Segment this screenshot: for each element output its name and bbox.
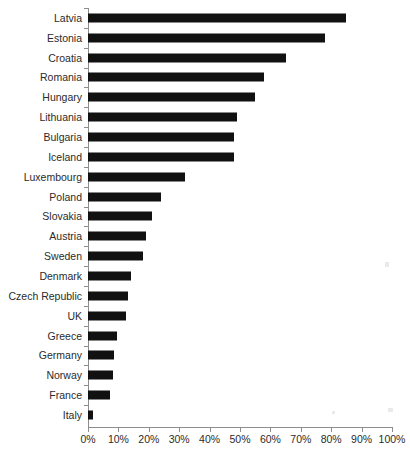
- bar-row: Slovakia: [88, 207, 392, 227]
- bar-category-label: Czech Republic: [8, 291, 82, 302]
- y-axis-tick: [84, 187, 88, 188]
- bar: [88, 272, 131, 281]
- x-axis-tick: [362, 427, 363, 432]
- bar: [88, 172, 185, 181]
- y-axis-tick: [84, 167, 88, 168]
- y-axis-tick: [84, 286, 88, 287]
- y-axis-tick: [84, 326, 88, 327]
- x-axis-tick: [301, 427, 302, 432]
- x-axis-tick-label: 10%: [108, 434, 129, 445]
- bar-category-label: Romania: [40, 72, 82, 83]
- bar-chart: LatviaEstoniaCroatiaRomaniaHungaryLithua…: [0, 0, 410, 457]
- bar-category-label: Denmark: [39, 271, 82, 282]
- x-axis-tick: [88, 427, 89, 432]
- x-axis-tick: [149, 427, 150, 432]
- x-axis-tick: [210, 427, 211, 432]
- bar-category-label: Austria: [49, 231, 82, 242]
- bar: [88, 411, 93, 420]
- bar-row: Greece: [88, 326, 392, 346]
- bar: [88, 331, 117, 340]
- bar-row: Poland: [88, 187, 392, 207]
- bar-row: Lithuania: [88, 107, 392, 127]
- bar-category-label: Greece: [48, 330, 82, 341]
- bar-category-label: Latvia: [54, 13, 82, 24]
- bar-row: Norway: [88, 365, 392, 385]
- bar-row: Estonia: [88, 28, 392, 48]
- bar: [88, 212, 152, 221]
- plot-area: LatviaEstoniaCroatiaRomaniaHungaryLithua…: [88, 8, 392, 425]
- bar-row: Croatia: [88, 48, 392, 68]
- x-axis-tick: [118, 427, 119, 432]
- bar-row: Austria: [88, 226, 392, 246]
- x-axis-tick-label: 90%: [351, 434, 372, 445]
- bar-category-label: Estonia: [47, 33, 82, 44]
- bar-category-label: Norway: [46, 370, 82, 381]
- bar-category-label: Croatia: [48, 52, 82, 63]
- x-axis-tick-label: 70%: [290, 434, 311, 445]
- x-axis-tick-label: 100%: [379, 434, 406, 445]
- x-axis-tick: [331, 427, 332, 432]
- bar: [88, 252, 143, 261]
- bar-category-label: Iceland: [48, 152, 82, 163]
- x-axis-tick-label: 80%: [321, 434, 342, 445]
- y-axis-tick: [84, 365, 88, 366]
- y-axis-tick: [84, 87, 88, 88]
- x-axis-tick-label: 30%: [169, 434, 190, 445]
- bar: [88, 33, 325, 42]
- bar: [88, 73, 264, 82]
- y-axis-tick: [84, 28, 88, 29]
- x-axis-tick: [392, 427, 393, 432]
- bar-row: Bulgaria: [88, 127, 392, 147]
- y-axis-tick: [84, 127, 88, 128]
- bar-category-label: Italy: [63, 410, 82, 421]
- bar-category-label: Poland: [49, 191, 82, 202]
- y-axis-tick: [84, 107, 88, 108]
- bar-category-label: France: [49, 390, 82, 401]
- y-axis-tick: [84, 207, 88, 208]
- bar-category-label: Lithuania: [39, 112, 82, 123]
- bar: [88, 152, 234, 161]
- y-axis-tick: [84, 266, 88, 267]
- x-axis-tick-label: 20%: [138, 434, 159, 445]
- bar-row: Iceland: [88, 147, 392, 167]
- y-axis-tick: [84, 48, 88, 49]
- bar-category-label: Sweden: [44, 251, 82, 262]
- bar: [88, 232, 146, 241]
- bar-row: Denmark: [88, 266, 392, 286]
- y-axis-tick: [84, 306, 88, 307]
- bar-category-label: Bulgaria: [43, 132, 82, 143]
- bar-row: Romania: [88, 68, 392, 88]
- bar: [88, 53, 286, 62]
- bar-row: Luxembourg: [88, 167, 392, 187]
- bar: [88, 391, 110, 400]
- bar-category-label: Slovakia: [42, 211, 82, 222]
- bar: [88, 351, 114, 360]
- bar-category-label: Luxembourg: [24, 172, 82, 183]
- bar-row: Czech Republic: [88, 286, 392, 306]
- bar-category-label: Hungary: [42, 92, 82, 103]
- y-axis-tick: [84, 385, 88, 386]
- y-axis-tick: [84, 246, 88, 247]
- x-axis-tick-label: 60%: [260, 434, 281, 445]
- bar-row: UK: [88, 306, 392, 326]
- bar: [88, 311, 126, 320]
- x-axis-tick: [179, 427, 180, 432]
- bar: [88, 192, 161, 201]
- bar: [88, 291, 128, 300]
- bar: [88, 133, 234, 142]
- bar: [88, 13, 346, 22]
- x-axis-tick-label: 0%: [80, 434, 95, 445]
- bar-category-label: Germany: [39, 350, 82, 361]
- bar: [88, 371, 113, 380]
- y-axis-tick: [84, 405, 88, 406]
- bar: [88, 113, 237, 122]
- bar-category-label: UK: [67, 311, 82, 322]
- bar-row: Italy: [88, 405, 392, 425]
- y-axis-tick: [84, 226, 88, 227]
- bar-row: Sweden: [88, 246, 392, 266]
- x-axis-tick: [240, 427, 241, 432]
- bar-row: Germany: [88, 346, 392, 366]
- x-axis-tick-label: 50%: [229, 434, 250, 445]
- bar-row: France: [88, 385, 392, 405]
- bar: [88, 93, 255, 102]
